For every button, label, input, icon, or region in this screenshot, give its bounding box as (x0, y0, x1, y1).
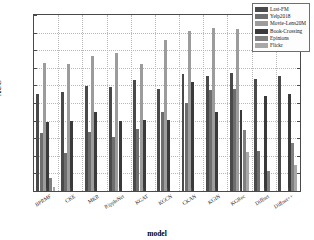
x-tick-mark (191, 188, 192, 191)
x-gridline (179, 15, 180, 191)
x-tick-mark (94, 188, 95, 191)
bar (167, 120, 170, 191)
bar (215, 112, 218, 191)
legend-label: Flickr (270, 43, 283, 48)
legend-item[interactable]: Movie-Lens20M (255, 20, 306, 27)
legend-swatch-icon (255, 43, 268, 48)
x-tick-label: CKE (64, 193, 76, 204)
legend-label: Yelp2018 (270, 14, 290, 19)
y-tick-mark (297, 68, 300, 69)
y-tick-mark (34, 50, 37, 51)
y-tick-mark (34, 191, 37, 192)
y-gridline (34, 103, 300, 104)
y-gridline (34, 68, 300, 69)
x-tick-mark (167, 188, 168, 191)
figure-container: 0.50.550.60.650.70.750.80.850.90.951 AUC… (0, 0, 314, 240)
bar (294, 165, 297, 191)
x-gridline (107, 15, 108, 191)
y-gridline (34, 85, 300, 86)
x-tick-label: Diffnet++ (273, 193, 294, 210)
x-tick-label: Diffnet (254, 193, 270, 206)
bar (257, 151, 260, 191)
y-tick-mark (34, 68, 37, 69)
x-tick-label: KGAT (134, 193, 149, 206)
x-gridline (155, 15, 156, 191)
x-tick-label: BPRMF (34, 193, 52, 208)
bar (246, 152, 249, 191)
x-gridline (227, 15, 228, 191)
bar (53, 187, 56, 191)
y-tick-mark (297, 191, 300, 192)
legend-swatch-icon (255, 14, 268, 19)
x-gridline (131, 15, 132, 191)
x-gridline (82, 15, 83, 191)
x-tick-mark (240, 188, 241, 191)
y-tick-mark (297, 103, 300, 104)
legend-item[interactable]: Epinions (255, 35, 306, 42)
legend-swatch-icon (255, 7, 268, 12)
x-tick-label: RippleNet (103, 193, 125, 210)
x-tick-mark (215, 188, 216, 191)
legend-item[interactable]: Flickr (255, 42, 306, 49)
bar (278, 76, 281, 191)
legend-item[interactable]: Last-FM (255, 6, 306, 13)
x-tick-label: KGRec (229, 193, 246, 207)
x-tick-label: KGIN (207, 193, 222, 205)
y-tick-mark (297, 138, 300, 139)
legend-label: Last-FM (270, 7, 289, 12)
y-tick-mark (297, 156, 300, 157)
x-tick-label: CKAN (181, 193, 197, 206)
legend-swatch-icon (255, 29, 268, 34)
x-tick-mark (119, 188, 120, 191)
bar (191, 82, 194, 191)
y-axis-title: AUC (0, 80, 3, 96)
y-tick-mark (34, 85, 37, 86)
y-tick-mark (297, 121, 300, 122)
legend-swatch-icon (255, 36, 268, 41)
y-tick-mark (297, 173, 300, 174)
x-gridline (203, 15, 204, 191)
x-tick-mark (288, 188, 289, 191)
x-gridline (58, 15, 59, 191)
legend-swatch-icon (255, 21, 268, 26)
x-tick-label: KGCN (157, 193, 173, 206)
chart-legend: Last-FMYelp2018Movie-Lens20MBook-Crossin… (252, 3, 310, 52)
x-tick-mark (143, 188, 144, 191)
x-axis-title: model (0, 229, 314, 238)
legend-item[interactable]: Yelp2018 (255, 13, 306, 20)
bar (119, 121, 122, 191)
y-tick-mark (34, 33, 37, 34)
bar (143, 120, 146, 191)
legend-label: Epinions (270, 36, 289, 41)
bar (94, 112, 97, 191)
y-tick-mark (34, 15, 37, 16)
y-tick-mark (297, 85, 300, 86)
bar (70, 121, 73, 191)
legend-label: Book-Crossing (270, 29, 302, 34)
legend-label: Movie-Lens20M (270, 21, 306, 26)
x-tick-mark (46, 188, 47, 191)
legend-item[interactable]: Book-Crossing (255, 28, 306, 35)
x-tick-label: MKR (87, 193, 101, 205)
x-tick-mark (70, 188, 71, 191)
x-tick-mark (264, 188, 265, 191)
bar (267, 171, 270, 191)
